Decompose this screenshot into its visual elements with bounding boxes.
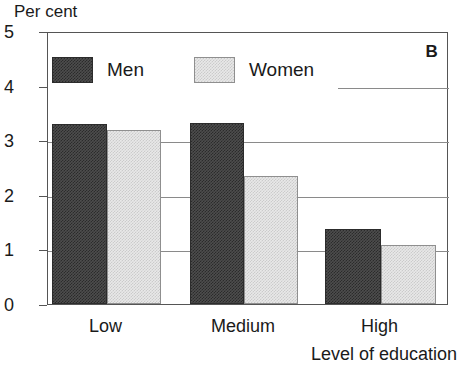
legend-label-women: Women — [249, 58, 314, 82]
bar-men-low — [52, 124, 107, 304]
y-tick-mark-1 — [39, 250, 47, 251]
panel-letter: B — [426, 43, 438, 61]
y-tick-label-1: 1 — [0, 241, 14, 259]
y-tick-label-5: 5 — [0, 23, 14, 41]
bar-women-high — [381, 245, 436, 305]
y-tick-label-3: 3 — [0, 132, 14, 150]
y-tick-mark-0 — [39, 305, 47, 306]
y-tick-mark-4 — [39, 87, 47, 88]
y-axis-title: Per cent — [14, 2, 77, 22]
gridline-4 — [338, 88, 449, 89]
y-tick-label-2: 2 — [0, 187, 14, 205]
y-tick-label-4: 4 — [0, 78, 14, 96]
y-tick-mark-5 — [39, 32, 47, 33]
bar-chart-figure: Per cent 012345 Men Women B LowMediumHig… — [0, 0, 466, 372]
y-tick-label-0: 0 — [0, 296, 14, 314]
x-axis-label-high: High — [294, 316, 465, 336]
legend-swatch-men — [52, 57, 93, 83]
bar-men-high — [325, 229, 381, 304]
plot-area: Men Women B — [47, 32, 448, 305]
x-axis-title: Level of education — [311, 344, 457, 364]
legend-label-men: Men — [107, 58, 144, 82]
legend-swatch-women — [194, 57, 235, 83]
y-tick-mark-3 — [39, 141, 47, 142]
bar-women-low — [107, 130, 161, 304]
bar-men-medium — [190, 123, 244, 304]
bar-women-medium — [244, 176, 298, 304]
y-tick-mark-2 — [39, 196, 47, 197]
